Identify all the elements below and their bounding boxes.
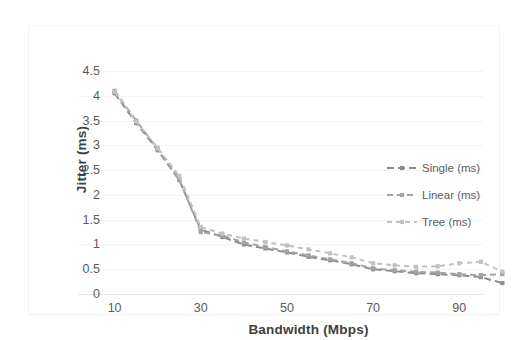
data-point-marker xyxy=(177,174,181,178)
data-point-marker xyxy=(349,255,353,259)
legend-item-label: Single (ms) xyxy=(422,162,480,174)
x-tick-label: 30 xyxy=(194,302,208,315)
data-point-marker xyxy=(500,270,504,274)
legend-line-swatch-icon xyxy=(387,189,417,201)
y-tick-label: 0 xyxy=(93,288,100,301)
data-point-marker xyxy=(393,263,397,267)
x-axis-tick-labels: 1030507090 xyxy=(106,302,511,320)
legend-line-swatch-icon xyxy=(387,162,417,174)
data-point-marker xyxy=(285,249,289,253)
data-point-marker xyxy=(457,272,461,276)
x-axis-title: Bandwidth (Mbps) xyxy=(106,322,511,337)
x-tick-label: 90 xyxy=(452,302,466,315)
data-point-marker xyxy=(436,264,440,268)
data-point-marker xyxy=(479,260,483,264)
data-point-marker xyxy=(156,146,160,150)
x-tick-label: 50 xyxy=(280,302,294,315)
data-point-marker xyxy=(414,270,418,274)
data-point-marker xyxy=(113,90,117,94)
data-point-marker xyxy=(242,240,246,244)
data-point-marker xyxy=(285,243,289,247)
data-point-marker xyxy=(199,230,203,234)
data-point-marker xyxy=(457,261,461,265)
data-point-marker xyxy=(328,257,332,261)
data-point-marker xyxy=(328,251,332,255)
legend-line-swatch-icon xyxy=(387,216,417,228)
y-tick-label: 4.5 xyxy=(83,65,100,78)
y-tick-label: 1 xyxy=(93,238,100,251)
legend-item-tree[interactable]: Tree (ms) xyxy=(387,208,509,235)
x-tick-label: 10 xyxy=(108,302,122,315)
data-point-marker xyxy=(500,281,504,285)
legend-item-linear[interactable]: Linear (ms) xyxy=(387,181,509,208)
data-point-marker xyxy=(306,253,310,257)
data-point-marker xyxy=(414,265,418,269)
data-point-marker xyxy=(199,225,203,229)
chart-figure: 00.511.522.533.544.5 1030507090 Jitter (… xyxy=(0,0,532,340)
legend-item-single[interactable]: Single (ms) xyxy=(387,154,509,181)
y-tick-label: 0.5 xyxy=(83,263,100,276)
data-point-marker xyxy=(393,268,397,272)
x-tick-label: 70 xyxy=(366,302,380,315)
data-point-marker xyxy=(371,266,375,270)
data-point-marker xyxy=(134,119,138,123)
data-point-marker xyxy=(220,231,224,235)
chart-plot-frame: 00.511.522.533.544.5 1030507090 Jitter (… xyxy=(28,25,500,315)
data-point-marker xyxy=(371,261,375,265)
legend-item-label: Tree (ms) xyxy=(422,216,471,228)
data-point-marker xyxy=(479,273,483,277)
data-point-marker xyxy=(436,271,440,275)
data-point-marker xyxy=(349,261,353,265)
y-axis-title: Jitter (ms) xyxy=(74,100,89,220)
chart-legend: Single (ms)Linear (ms)Tree (ms) xyxy=(387,154,509,235)
y-tick-label: 4 xyxy=(93,90,100,103)
y-tick-label: 2 xyxy=(93,189,100,202)
y-tick-label: 3 xyxy=(93,139,100,152)
data-point-marker xyxy=(263,245,267,249)
gridline-y xyxy=(78,294,483,295)
data-point-marker xyxy=(242,236,246,240)
data-point-marker xyxy=(306,247,310,251)
data-point-marker xyxy=(263,240,267,244)
legend-item-label: Linear (ms) xyxy=(422,189,480,201)
